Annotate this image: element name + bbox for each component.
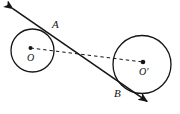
geometry-figure: A B O O' <box>0 0 180 114</box>
center-dot-right <box>141 60 146 65</box>
center-dot-left <box>29 46 33 50</box>
label-point-b: B <box>114 88 121 99</box>
label-center-right: O' <box>139 67 148 77</box>
label-point-a: A <box>52 19 59 30</box>
label-center-left: O <box>27 53 34 63</box>
